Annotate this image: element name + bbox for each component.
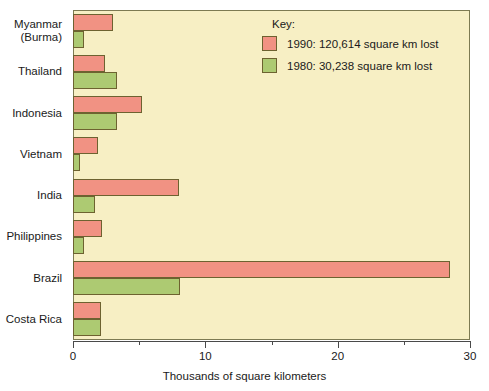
x-tick-major-0 — [73, 341, 74, 348]
legend-entry-1990: 1990: 120,614 square km lost — [262, 36, 439, 51]
legend-label-1990: 1990: 120,614 square km lost — [287, 38, 439, 50]
bar-philippines-1980 — [73, 237, 84, 254]
y-axis-label-brazil: Brazil — [33, 272, 62, 285]
x-tick-label-0: 0 — [70, 350, 76, 362]
x-tick-major-10 — [205, 341, 206, 348]
y-axis-label-vietnam: Vietnam — [20, 148, 62, 161]
deforestation-bar-chart: Myanmar(Burma)ThailandIndonesiaVietnamIn… — [0, 0, 489, 391]
x-tick-minor-25 — [404, 341, 405, 345]
bar-vietnam-1990 — [73, 137, 98, 154]
bar-indonesia-1990 — [73, 96, 142, 113]
x-tick-minor-15 — [272, 341, 273, 345]
bar-thailand-1990 — [73, 55, 105, 72]
legend-entry-1980: 1980: 30,238 square km lost — [262, 58, 439, 73]
bar-india-1980 — [73, 196, 95, 213]
bar-thailand-1980 — [73, 72, 117, 89]
x-axis-title: Thousands of square kilometers — [0, 370, 489, 382]
y-axis-labels: Myanmar(Burma)ThailandIndonesiaVietnamIn… — [0, 10, 70, 340]
legend-swatch-1980 — [262, 58, 277, 73]
y-axis-label-india: India — [37, 189, 62, 202]
x-tick-label-20: 20 — [331, 350, 344, 362]
y-axis-label-indonesia: Indonesia — [12, 107, 62, 120]
x-tick-label-10: 10 — [199, 350, 212, 362]
legend-swatch-1990 — [262, 36, 277, 51]
legend: Key: 1990: 120,614 square km lost 1980: … — [262, 18, 439, 80]
bar-myanmar-burma-1980 — [73, 31, 84, 48]
y-axis-label-costa-rica: Costa Rica — [6, 313, 62, 326]
bar-vietnam-1980 — [73, 154, 80, 171]
bar-costa-rica-1980 — [73, 319, 101, 336]
x-tick-label-30: 30 — [464, 350, 477, 362]
y-axis-label-myanmar-burma: Myanmar(Burma) — [14, 18, 62, 44]
bar-costa-rica-1990 — [73, 302, 101, 319]
legend-label-1980: 1980: 30,238 square km lost — [287, 60, 432, 72]
legend-title: Key: — [272, 18, 439, 30]
y-axis-label-thailand: Thailand — [18, 65, 62, 78]
x-tick-major-20 — [338, 341, 339, 348]
bar-india-1990 — [73, 179, 179, 196]
x-tick-major-30 — [470, 341, 471, 348]
bar-myanmar-burma-1990 — [73, 14, 113, 31]
bar-philippines-1990 — [73, 220, 102, 237]
x-tick-minor-5 — [139, 341, 140, 345]
y-axis-label-philippines: Philippines — [6, 230, 62, 243]
bar-brazil-1990 — [73, 261, 450, 278]
bar-indonesia-1980 — [73, 113, 117, 130]
bar-brazil-1980 — [73, 278, 180, 295]
